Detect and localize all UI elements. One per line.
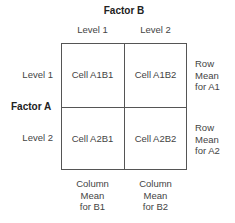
column-mean-b1-line3: for B1 — [61, 201, 124, 213]
cell-a1b2-label: Cell A1B2 — [135, 69, 177, 81]
row-mean-a1-line2: Mean — [195, 70, 235, 82]
column-mean-b2-line2: Mean — [124, 190, 187, 202]
cell-a2b1: Cell A2B1 — [61, 107, 124, 171]
row-mean-a1-line3: for A1 — [195, 81, 235, 93]
column-mean-b1-line2: Mean — [61, 190, 124, 202]
column-mean-b1-line1: Column — [61, 178, 124, 190]
cell-a2b2-label: Cell A2B2 — [135, 133, 177, 145]
cell-a1b2: Cell A1B2 — [124, 43, 187, 107]
column-level-1-label: Level 1 — [61, 24, 124, 36]
row-level-1-label: Level 1 — [0, 69, 53, 81]
row-level-2-label: Level 2 — [0, 132, 53, 144]
cell-a2b2: Cell A2B2 — [124, 107, 187, 171]
column-level-2-label: Level 2 — [124, 24, 187, 36]
column-mean-b2-line1: Column — [124, 178, 187, 190]
cell-a1b1: Cell A1B1 — [61, 43, 124, 107]
column-mean-b2: Column Mean for B2 — [124, 178, 187, 213]
column-mean-b1: Column Mean for B1 — [61, 178, 124, 213]
cell-a1b1-label: Cell A1B1 — [72, 69, 114, 81]
row-mean-a2-line1: Row — [195, 122, 235, 134]
factor-a-title: Factor A — [11, 101, 51, 113]
factor-b-title: Factor B — [61, 5, 187, 17]
row-mean-a2-line2: Mean — [195, 134, 235, 146]
column-mean-b2-line3: for B2 — [124, 201, 187, 213]
row-mean-a1: Row Mean for A1 — [195, 58, 235, 93]
row-mean-a2-line3: for A2 — [195, 145, 235, 157]
row-mean-a1-line1: Row — [195, 58, 235, 70]
row-mean-a2: Row Mean for A2 — [195, 122, 235, 157]
cell-a2b1-label: Cell A2B1 — [72, 133, 114, 145]
